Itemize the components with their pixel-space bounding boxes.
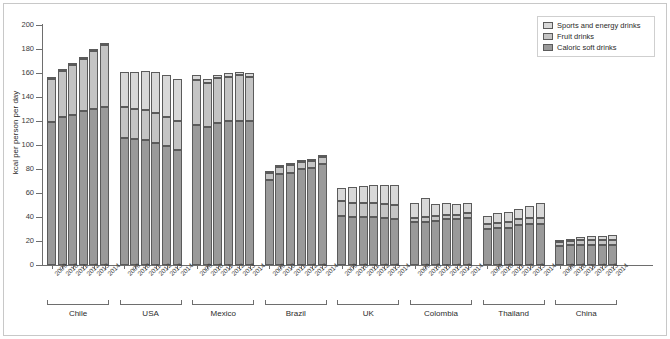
bar-uk-2012 <box>369 185 378 265</box>
bar-segment-caloric-soft-drinks <box>297 169 306 265</box>
group-brace-colombia <box>410 300 472 305</box>
bar-segment-caloric-soft-drinks <box>380 218 389 265</box>
y-tick-100 <box>36 145 42 146</box>
bar-segment-fruit-drinks <box>235 75 244 121</box>
bar-segment-caloric-soft-drinks <box>224 121 233 265</box>
y-tick-label-wrap-200: 200 <box>0 21 34 29</box>
y-tick-label-wrap-180: 180 <box>0 45 34 53</box>
bar-segment-fruit-drinks <box>245 77 254 121</box>
bar-segment-caloric-soft-drinks <box>431 221 440 265</box>
group-brace-brazil <box>265 300 327 305</box>
y-tick-label-100: 100 <box>21 141 34 149</box>
bar-segment-sports-energy-drinks <box>359 186 368 203</box>
bar-segment-caloric-soft-drinks <box>235 121 244 265</box>
bar-segment-sports-energy-drinks <box>525 206 534 218</box>
legend-label-fruit: Fruit drinks <box>557 33 594 41</box>
bar-segment-caloric-soft-drinks <box>359 217 368 265</box>
bar-segment-fruit-drinks <box>130 109 139 139</box>
bar-colombia-2011 <box>431 204 440 265</box>
bar-segment-fruit-drinks <box>421 217 430 222</box>
bar-segment-fruit-drinks <box>514 219 523 225</box>
y-tick-0 <box>36 265 42 266</box>
bar-segment-sports-energy-drinks <box>318 155 327 157</box>
bar-segment-caloric-soft-drinks <box>452 219 461 265</box>
bar-segment-caloric-soft-drinks <box>421 222 430 265</box>
bar-segment-fruit-drinks <box>525 218 534 224</box>
x-tick-colombia-2009 <box>415 265 416 269</box>
bar-segment-caloric-soft-drinks <box>192 125 201 265</box>
bar-segment-caloric-soft-drinks <box>536 224 545 265</box>
bar-segment-fruit-drinks <box>203 83 212 127</box>
chart-figure: kcal per person per day 0204060801001201… <box>0 0 670 339</box>
bar-segment-sports-energy-drinks <box>173 79 182 121</box>
bar-segment-caloric-soft-drinks <box>151 143 160 265</box>
bar-segment-caloric-soft-drinks <box>493 228 502 265</box>
y-tick-label-60: 60 <box>26 189 34 197</box>
bar-uk-2014 <box>390 185 399 265</box>
bar-chile-2011 <box>68 63 77 265</box>
bar-segment-caloric-soft-drinks <box>213 123 222 265</box>
bar-usa-2014 <box>173 79 182 265</box>
bar-thailand-2014 <box>536 203 545 265</box>
group-brace-china <box>555 300 617 305</box>
bar-segment-fruit-drinks <box>504 222 513 228</box>
legend-swatch-fruit-icon <box>543 33 553 40</box>
bar-thailand-2012 <box>514 209 523 265</box>
bar-mexico-2011 <box>213 75 222 265</box>
legend-item-fruit: Fruit drinks <box>543 32 650 41</box>
bar-segment-sports-energy-drinks <box>348 187 357 203</box>
bar-segment-caloric-soft-drinks <box>483 229 492 265</box>
bar-chile-2012 <box>79 57 88 265</box>
bar-brazil-2013 <box>307 159 316 265</box>
bar-chile-2014 <box>100 43 109 265</box>
bar-segment-fruit-drinks <box>141 110 150 140</box>
bar-segment-sports-energy-drinks <box>555 240 564 242</box>
y-tick-label-200: 200 <box>21 21 34 29</box>
bar-thailand-2009 <box>483 216 492 265</box>
bar-segment-fruit-drinks <box>483 224 492 229</box>
bar-segment-sports-energy-drinks <box>410 203 419 219</box>
bar-segment-caloric-soft-drinks <box>337 216 346 265</box>
bar-segment-fruit-drinks <box>224 77 233 121</box>
y-tick-80 <box>36 169 42 170</box>
bar-segment-fruit-drinks <box>307 161 316 168</box>
x-tick-china-2009 <box>560 265 561 269</box>
bar-segment-caloric-soft-drinks <box>68 115 77 265</box>
bar-segment-sports-energy-drinks <box>203 79 212 83</box>
bar-segment-sports-energy-drinks <box>307 159 316 161</box>
group-label-usa: USA <box>120 309 182 318</box>
bar-segment-fruit-drinks <box>380 204 389 218</box>
group-label-uk: UK <box>337 309 399 318</box>
bar-colombia-2013 <box>452 204 461 265</box>
bar-segment-sports-energy-drinks <box>504 212 513 222</box>
bar-segment-sports-energy-drinks <box>265 171 274 173</box>
bar-segment-fruit-drinks <box>297 162 306 169</box>
bar-segment-sports-energy-drinks <box>337 188 346 201</box>
x-tick-mexico-2009 <box>197 265 198 269</box>
legend-item-sports: Sports and energy drinks <box>543 21 650 30</box>
bar-segment-caloric-soft-drinks <box>442 219 451 265</box>
bar-segment-sports-energy-drinks <box>224 73 233 77</box>
bar-brazil-2011 <box>286 164 295 265</box>
bar-mexico-2010 <box>203 79 212 265</box>
group-brace-thailand <box>483 300 545 305</box>
bar-segment-sports-energy-drinks <box>452 204 461 215</box>
y-tick-20 <box>36 241 42 242</box>
y-tick-label-140: 140 <box>21 93 34 101</box>
bar-segment-fruit-drinks <box>348 203 357 217</box>
bar-segment-sports-energy-drinks <box>598 236 607 240</box>
bar-china-2012 <box>587 236 596 265</box>
bar-segment-caloric-soft-drinks <box>265 180 274 265</box>
bar-segment-sports-energy-drinks <box>566 239 575 241</box>
bar-segment-caloric-soft-drinks <box>463 218 472 265</box>
group-label-colombia: Colombia <box>410 309 472 318</box>
bar-segment-fruit-drinks <box>213 78 222 124</box>
bar-segment-sports-energy-drinks <box>275 165 284 167</box>
bar-colombia-2012 <box>442 203 451 265</box>
bar-segment-sports-energy-drinks <box>100 43 109 45</box>
y-tick-label-80: 80 <box>26 165 34 173</box>
bar-segment-sports-energy-drinks <box>369 185 378 203</box>
y-tick-label-120: 120 <box>21 117 34 125</box>
group-label-thailand: Thailand <box>483 309 545 318</box>
bar-segment-sports-energy-drinks <box>89 49 98 51</box>
